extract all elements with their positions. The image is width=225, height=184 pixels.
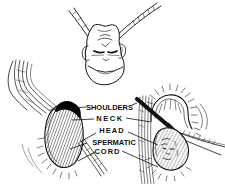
right-sac-dome [151, 95, 192, 129]
head-outline [85, 24, 124, 84]
labels: SHOULDERS NECK HEAD SPERMATIC CORD [86, 103, 136, 157]
right-strap [116, 3, 161, 40]
line-drawing: SHOULDERS NECK HEAD SPERMATIC CORD [0, 0, 225, 184]
inverted-head-figure [69, 3, 161, 85]
label-cord: CORD [94, 147, 120, 156]
label-neck: NECK [96, 114, 123, 123]
label-shoulders: SHOULDERS [86, 103, 133, 112]
label-spermatic: SPERMATIC [92, 138, 136, 147]
medical-illustration: SHOULDERS NECK HEAD SPERMATIC CORD [0, 0, 225, 184]
hernia-sac-right-figure [137, 84, 225, 184]
left-proximal-cord [8, 60, 57, 115]
label-head: HEAD [99, 126, 124, 135]
